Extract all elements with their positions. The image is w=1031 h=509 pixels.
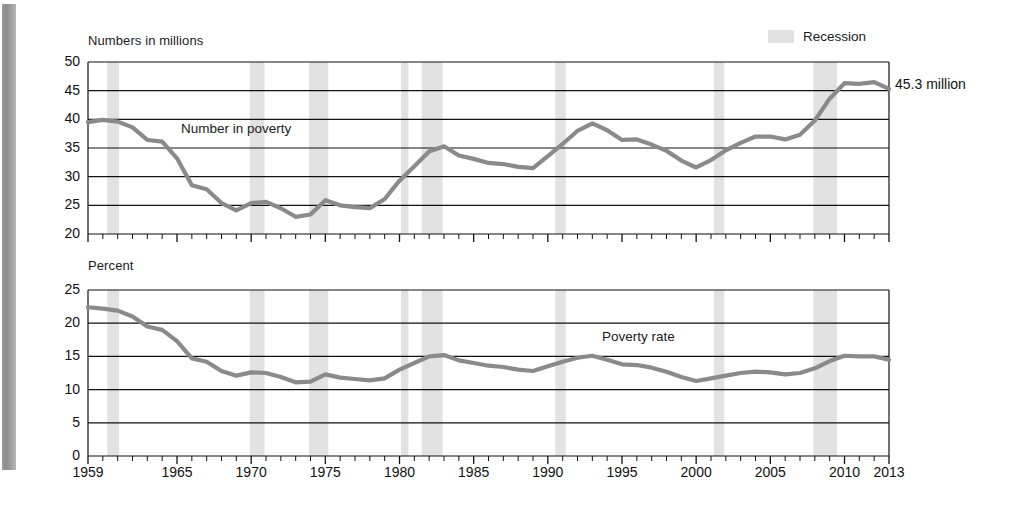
x-tick-label: 2000 — [681, 464, 712, 480]
recession-band — [555, 290, 565, 456]
axis-title-numbers-in-millions: Numbers in millions — [88, 33, 203, 48]
figure-root: Recession Numbers in millions Number in … — [0, 0, 1031, 509]
y-tick-label: 50 — [46, 53, 80, 69]
y-tick-label: 5 — [46, 414, 80, 430]
y-tick-label: 0 — [46, 447, 80, 463]
recession-band — [401, 290, 408, 456]
x-tick-label: 1995 — [606, 464, 637, 480]
series-label-number-in-poverty: Number in poverty — [181, 121, 291, 136]
y-tick-label: 25 — [46, 196, 80, 212]
axis-title-percent: Percent — [88, 258, 134, 273]
y-tick-label: 35 — [46, 139, 80, 155]
chart-number-in-poverty: Numbers in millions Number in poverty 45… — [0, 0, 1031, 250]
x-tick-label: 1970 — [236, 464, 267, 480]
data-line-number-in-poverty — [88, 82, 889, 217]
y-tick-label: 45 — [46, 82, 80, 98]
end-annotation-45-3-million: 45.3 million — [895, 76, 966, 92]
y-tick-label: 15 — [46, 347, 80, 363]
x-tick-label: 1990 — [532, 464, 563, 480]
y-tick-label: 30 — [46, 168, 80, 184]
x-tick-label: 1965 — [161, 464, 192, 480]
x-tick-label: 1985 — [458, 464, 489, 480]
y-tick-label: 20 — [46, 225, 80, 241]
y-tick-label: 25 — [46, 281, 80, 297]
chart-poverty-rate: Percent Poverty rate 14.5 percent 051015… — [0, 250, 1031, 509]
x-tick-label: 1975 — [310, 464, 341, 480]
x-tick-label: 2013 — [873, 464, 904, 480]
x-tick-label: 2010 — [829, 464, 860, 480]
recession-band — [422, 290, 443, 456]
recession-band — [813, 290, 837, 456]
y-tick-label: 20 — [46, 314, 80, 330]
y-tick-label: 10 — [46, 381, 80, 397]
x-tick-label: 1959 — [72, 464, 103, 480]
x-tick-label: 2005 — [755, 464, 786, 480]
series-label-poverty-rate: Poverty rate — [602, 329, 675, 344]
data-line-poverty-rate — [88, 307, 889, 382]
x-tick-label: 1980 — [384, 464, 415, 480]
recession-band — [714, 290, 724, 456]
recession-band — [107, 290, 119, 456]
y-tick-label: 40 — [46, 110, 80, 126]
